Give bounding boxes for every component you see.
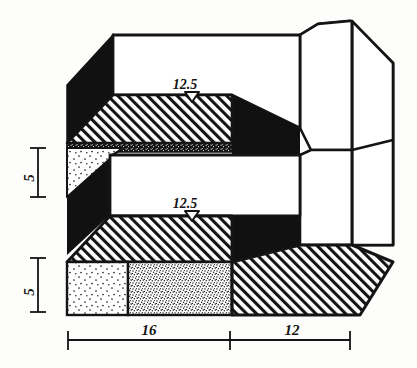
- drawing-canvas: 12.5 12.5 5 5 16 12: [0, 0, 417, 368]
- right-span-label: 12: [285, 322, 301, 338]
- technical-drawing: 12.5 12.5 5 5 16 12: [0, 0, 417, 368]
- lower-height-label: 5: [21, 288, 37, 296]
- horizontal-dimension-line: 16 12: [68, 322, 350, 350]
- right-block-upper-facet: [300, 21, 352, 150]
- lower-height-dimension: 5: [21, 258, 46, 312]
- right-block-side-face: [352, 21, 393, 245]
- right-block-body: [300, 21, 393, 245]
- upper-height-dimension: 5: [21, 148, 46, 197]
- right-block-lower-facet: [300, 150, 352, 245]
- upper-level-label: 12.5: [173, 77, 198, 92]
- base-fill-sparse: [67, 262, 128, 315]
- upper-height-label: 5: [21, 174, 37, 182]
- middle-void: [110, 155, 300, 216]
- right-base-hatch: [232, 245, 393, 315]
- lower-level-label: 12.5: [173, 196, 198, 211]
- base-fill-dense: [128, 262, 232, 315]
- left-span-label: 16: [142, 322, 158, 338]
